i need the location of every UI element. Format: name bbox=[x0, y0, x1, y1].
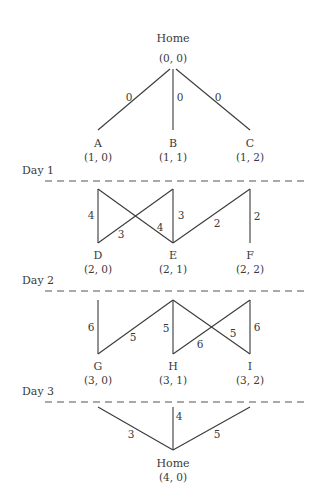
weight-E-I: 5 bbox=[230, 327, 237, 339]
node-B-label: B bbox=[169, 137, 177, 150]
weight-H-home: 4 bbox=[176, 410, 183, 422]
node-I-label: I bbox=[248, 360, 252, 373]
weight-home-A: 0 bbox=[126, 91, 133, 103]
node-home-end-coord: (4, 0) bbox=[159, 471, 187, 483]
weight-A-D: 4 bbox=[88, 209, 95, 221]
weight-F-H: 6 bbox=[197, 338, 204, 350]
edges-stage0-to-1 bbox=[98, 69, 250, 130]
edge-home-C bbox=[176, 69, 250, 130]
node-F-coord: (2, 2) bbox=[236, 263, 264, 275]
node-E-coord: (2, 1) bbox=[159, 263, 187, 275]
node-E-label: E bbox=[169, 249, 177, 262]
node-I-coord: (3, 2) bbox=[236, 374, 264, 386]
node-C-coord: (1, 2) bbox=[236, 151, 264, 163]
weight-E-H: 5 bbox=[163, 322, 170, 334]
weight-B-E: 3 bbox=[178, 209, 185, 221]
node-home-end-label: Home bbox=[156, 457, 189, 470]
node-home-start-coord: (0, 0) bbox=[159, 52, 187, 64]
weight-home-C: 0 bbox=[215, 91, 222, 103]
node-D-label: D bbox=[94, 249, 103, 262]
edges-stage3-to-4 bbox=[98, 407, 250, 450]
network-diagram: Home (0, 0) 0 0 0 A (1, 0) B (1, 1) C (1… bbox=[0, 0, 333, 504]
node-G-coord: (3, 0) bbox=[84, 374, 112, 386]
edges-stage2-to-3 bbox=[98, 300, 250, 354]
edge-G-home bbox=[98, 407, 173, 450]
node-A-label: A bbox=[93, 137, 103, 150]
node-D-coord: (2, 0) bbox=[84, 263, 112, 275]
node-home-start-label: Home bbox=[156, 32, 189, 45]
node-H-label: H bbox=[168, 360, 178, 373]
edge-I-home bbox=[173, 407, 250, 450]
weight-F-I: 6 bbox=[254, 321, 261, 333]
weight-D-G: 6 bbox=[88, 321, 95, 333]
weight-I-home: 5 bbox=[214, 428, 221, 440]
weight-E-G: 5 bbox=[130, 331, 137, 343]
node-B-coord: (1, 1) bbox=[159, 151, 187, 163]
node-A-coord: (1, 0) bbox=[84, 151, 112, 163]
weight-C-E: 2 bbox=[214, 217, 221, 229]
day-1-label: Day 1 bbox=[22, 164, 54, 177]
day-2-label: Day 2 bbox=[22, 274, 54, 287]
weight-B-D: 3 bbox=[118, 228, 125, 240]
day-3-label: Day 3 bbox=[22, 385, 54, 398]
weight-home-B: 0 bbox=[177, 91, 184, 103]
weight-A-E: 4 bbox=[157, 221, 164, 233]
node-C-label: C bbox=[246, 137, 254, 150]
edge-home-A bbox=[98, 69, 170, 130]
weight-C-F: 2 bbox=[254, 210, 261, 222]
weight-G-home: 3 bbox=[128, 428, 135, 440]
node-G-label: G bbox=[94, 360, 103, 373]
node-H-coord: (3, 1) bbox=[159, 374, 187, 386]
edge-C-E bbox=[173, 189, 250, 243]
node-F-label: F bbox=[246, 249, 254, 262]
